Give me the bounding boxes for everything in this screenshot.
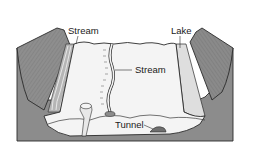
valley-illustration	[0, 0, 259, 154]
label-stream-left: Stream	[68, 26, 99, 36]
label-stream-center: Stream	[135, 65, 166, 75]
label-tunnel: Tunnel	[115, 120, 144, 130]
valley-diagram: Stream Lake Stream Tunnel	[0, 0, 259, 154]
label-lake: Lake	[171, 26, 192, 36]
